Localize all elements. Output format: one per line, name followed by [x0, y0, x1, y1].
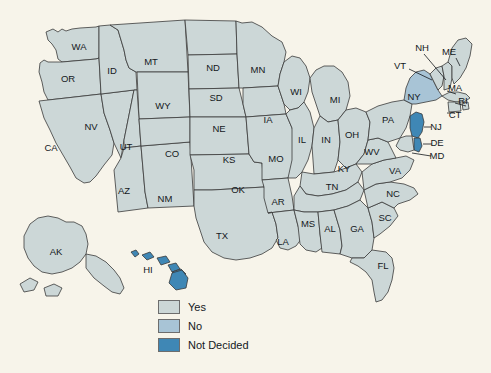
state-AK-peninsula[interactable]: [86, 254, 124, 294]
label-MS: MS: [301, 218, 315, 229]
label-CO: CO: [165, 148, 179, 159]
label-GA: GA: [350, 223, 364, 234]
label-MD: MD: [430, 150, 445, 161]
label-HI: HI: [143, 264, 153, 275]
label-TN: TN: [326, 181, 339, 192]
label-MO: MO: [268, 153, 283, 164]
us-choropleth-map: WA OR CA NV ID MT WY UT AZ NM CO ND SD N…: [0, 0, 491, 373]
legend-item-no[interactable]: No: [158, 318, 249, 333]
legend-item-not-decided[interactable]: Not Decided: [158, 337, 249, 352]
state-MN[interactable]: [236, 21, 286, 88]
label-NC: NC: [386, 188, 400, 199]
label-ND: ND: [206, 62, 220, 73]
label-VA: VA: [389, 165, 402, 176]
label-NH: NH: [415, 42, 429, 53]
label-SC: SC: [378, 212, 391, 223]
label-DE: DE: [430, 137, 443, 148]
label-OR: OR: [61, 73, 75, 84]
legend-label-no: No: [188, 319, 202, 333]
legend-label-not-decided: Not Decided: [188, 338, 249, 352]
label-KY: KY: [338, 163, 351, 174]
label-MA: MA: [448, 82, 463, 93]
state-HI[interactable]: [157, 256, 170, 265]
state-HI[interactable]: [142, 252, 154, 260]
label-NM: NM: [158, 193, 173, 204]
label-IL: IL: [298, 134, 306, 145]
map-legend: Yes No Not Decided: [158, 299, 249, 352]
label-AL: AL: [324, 223, 336, 234]
label-ID: ID: [107, 65, 117, 76]
label-IN: IN: [321, 134, 331, 145]
label-CT: CT: [449, 109, 462, 120]
label-OH: OH: [345, 129, 359, 140]
label-WI: WI: [290, 86, 302, 97]
label-WA: WA: [72, 41, 88, 52]
label-OK: OK: [231, 184, 245, 195]
leader-MD: [412, 153, 431, 156]
label-WV: WV: [364, 146, 380, 157]
label-AZ: AZ: [118, 185, 130, 196]
label-ME: ME: [442, 46, 456, 57]
label-AK: AK: [50, 246, 63, 257]
label-NJ: NJ: [430, 121, 442, 132]
state-FL[interactable]: [350, 250, 394, 302]
label-FL: FL: [377, 260, 388, 271]
legend-swatch-not-decided: [158, 338, 180, 352]
state-CO[interactable]: [139, 117, 190, 146]
state-HI[interactable]: [131, 250, 139, 257]
label-MT: MT: [144, 56, 158, 67]
label-NV: NV: [84, 121, 98, 132]
state-NJ[interactable]: [410, 112, 424, 138]
legend-swatch-no: [158, 319, 180, 333]
state-DE[interactable]: [414, 138, 422, 152]
label-NY: NY: [407, 91, 421, 102]
state-WY[interactable]: [137, 72, 190, 119]
label-TX: TX: [216, 230, 229, 241]
legend-item-yes[interactable]: Yes: [158, 299, 249, 314]
label-UT: UT: [120, 141, 133, 152]
label-LA: LA: [277, 236, 289, 247]
legend-swatch-yes: [158, 300, 180, 314]
label-MN: MN: [251, 64, 266, 75]
legend-label-yes: Yes: [188, 300, 206, 314]
label-CA: CA: [44, 142, 58, 153]
label-KS: KS: [223, 154, 236, 165]
state-IN[interactable]: [312, 116, 340, 174]
state-ND[interactable]: [185, 20, 237, 55]
label-NE: NE: [212, 123, 225, 134]
state-MS[interactable]: [294, 210, 322, 252]
label-SD: SD: [209, 92, 222, 103]
label-MI: MI: [330, 94, 341, 105]
label-AR: AR: [271, 196, 284, 207]
label-PA: PA: [382, 114, 395, 125]
label-WY: WY: [155, 100, 171, 111]
label-VT: VT: [394, 60, 406, 71]
label-IA: IA: [264, 114, 274, 125]
